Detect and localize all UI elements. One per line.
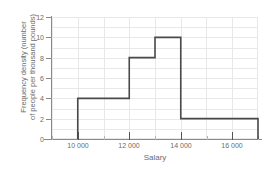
x-tick-label-14000: 14 000	[159, 142, 203, 150]
y-tick-mark	[46, 78, 51, 79]
y-axis-title-line2: of people per thousand pounds)	[28, 0, 37, 147]
y-tick-mark	[46, 119, 51, 120]
gridline-horizontal	[52, 37, 258, 38]
gridline-horizontal	[52, 17, 258, 18]
y-tick-mark	[46, 37, 51, 38]
gridline-horizontal	[52, 98, 258, 99]
gridline-horizontal	[52, 68, 258, 69]
x-major-tick	[232, 132, 233, 140]
x-axis-title: Salary	[52, 153, 258, 162]
gridline-horizontal	[52, 78, 258, 79]
x-axis-line	[44, 139, 262, 140]
x-tick-label-12000: 12 000	[107, 142, 151, 150]
y-tick-mark	[46, 58, 51, 59]
x-major-tick	[78, 132, 79, 140]
gridline-horizontal	[52, 27, 258, 28]
plot-area	[52, 17, 258, 139]
y-tick-mark	[46, 139, 51, 140]
x-major-tick	[181, 132, 182, 140]
histogram-figure: 0 2 4 6 8 10 12 10 000 12 000 14 000 16 …	[0, 0, 273, 175]
y-axis-title-line1: Frequency density (number	[19, 0, 28, 147]
x-minor-tick	[104, 136, 105, 140]
x-minor-tick	[155, 136, 156, 140]
y-axis-line	[51, 16, 52, 140]
x-minor-tick	[52, 136, 53, 140]
x-tick-label-16000: 16 000	[210, 142, 254, 150]
gridline-horizontal	[52, 58, 258, 59]
x-major-tick	[129, 132, 130, 140]
x-minor-tick	[207, 136, 208, 140]
y-tick-mark	[46, 17, 51, 18]
gridline-horizontal	[52, 88, 258, 89]
gridline-horizontal	[52, 109, 258, 110]
gridline-horizontal	[52, 48, 258, 49]
gridline-horizontal	[52, 119, 258, 120]
y-tick-mark	[46, 98, 51, 99]
x-minor-tick	[258, 136, 259, 140]
y-axis-title: Frequency density (number of people per …	[19, 0, 37, 147]
gridline-horizontal	[52, 129, 258, 130]
x-tick-label-10000: 10 000	[56, 142, 100, 150]
